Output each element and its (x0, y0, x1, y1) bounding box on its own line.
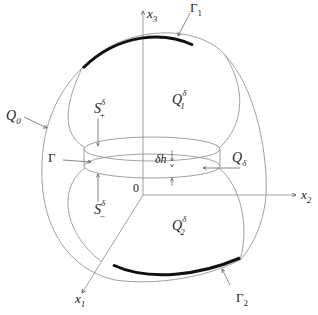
q2-delta-label: Qδ2 (172, 214, 187, 237)
origin-label: 0 (133, 181, 139, 195)
gamma2-arc (113, 258, 240, 275)
gamma-label: Γ (48, 150, 56, 165)
s-plus-label: Sδ+ (94, 97, 106, 120)
gamma2-label: Γ2 (236, 290, 248, 308)
x2-label: x2 (300, 187, 312, 205)
delta-h-label: δh (155, 152, 167, 166)
domain-diagram: x3 x2 x1 0 Q0 Qδ1 Qδ2 Qδ Γ Γ1 Γ2 Sδ+ Sδ−… (0, 0, 318, 315)
x1-label: x1 (74, 291, 85, 309)
q-delta-label: Qδ (232, 150, 247, 168)
s-minus-label: Sδ− (94, 198, 106, 221)
x3-label: x3 (146, 6, 158, 24)
diagram-svg: x3 x2 x1 0 Q0 Qδ1 Qδ2 Qδ Γ Γ1 Γ2 Sδ+ Sδ−… (0, 0, 318, 315)
x1-axis (82, 195, 143, 293)
q0-label: Q0 (6, 108, 21, 126)
gamma1-label: Γ1 (190, 0, 202, 18)
q1-delta-label: Qδ1 (172, 88, 187, 111)
transition-layer (84, 137, 220, 178)
